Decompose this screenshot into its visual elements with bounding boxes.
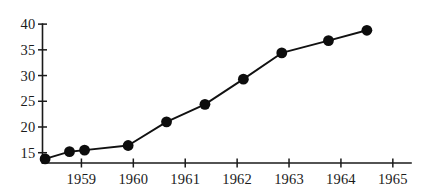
chart-axes [43,24,412,163]
series-data-markers [40,25,373,164]
series-line-path [45,30,367,159]
chart-plot-area [0,0,429,191]
series-polyline [45,30,367,159]
data-point-marker [323,35,334,46]
data-point-marker [123,140,134,151]
y-tick-label: 35 [2,43,36,58]
y-tick-label: 40 [2,17,36,32]
y-tick-label: 15 [2,146,36,161]
data-point-marker [276,48,287,59]
data-point-marker [238,74,249,85]
data-point-marker [361,25,372,36]
line-chart: 152025303540 195919601961196219631964196… [0,0,429,191]
x-tick-label: 1965 [363,172,423,187]
data-point-marker [64,146,75,157]
y-tick-label: 20 [2,120,36,135]
y-tick-label: 30 [2,69,36,84]
data-point-marker [161,116,172,127]
data-point-marker [79,145,90,156]
data-point-marker [40,153,51,164]
data-point-marker [200,99,211,110]
y-tick-label: 25 [2,94,36,109]
